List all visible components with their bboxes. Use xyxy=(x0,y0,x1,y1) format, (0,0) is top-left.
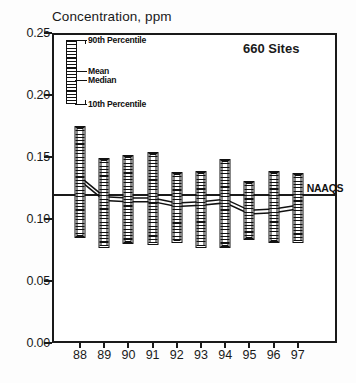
percentile-box xyxy=(123,155,134,244)
x-axis-tick-label: 92 xyxy=(170,348,184,362)
x-axis-tick-label: 93 xyxy=(194,348,208,362)
x-axis-tick-label: 88 xyxy=(73,348,87,362)
x-axis-tick-mark xyxy=(79,343,81,348)
x-axis-tick-mark xyxy=(152,343,154,348)
percentile-box-inner xyxy=(270,173,277,241)
concentration-boxplot-chart: Concentration, ppm 0.000.050.100.150.200… xyxy=(0,0,356,383)
percentile-box-inner xyxy=(198,173,205,246)
x-axis-tick-mark xyxy=(273,343,275,348)
legend-leader-line xyxy=(75,71,87,72)
percentile-box xyxy=(292,173,303,242)
naaqs-label: NAAQS xyxy=(307,182,343,194)
y-axis-tick-mark xyxy=(44,218,52,220)
y-axis: 0.000.050.100.150.200.25 xyxy=(0,0,50,383)
x-axis-tick-mark xyxy=(200,343,202,348)
x-axis-tick-mark xyxy=(176,343,178,348)
x-axis-tick-mark xyxy=(103,343,105,348)
x-axis-tick-label: 90 xyxy=(121,348,135,362)
x-axis-tick-label: 95 xyxy=(242,348,256,362)
y-axis-tick-mark xyxy=(44,156,52,158)
percentile-box xyxy=(220,159,231,247)
x-axis-tick-label: 89 xyxy=(97,348,111,362)
percentile-box xyxy=(75,126,86,238)
sites-count-note: 660 Sites xyxy=(243,41,299,56)
y-axis-tick-mark xyxy=(44,280,52,282)
percentile-box xyxy=(171,172,182,243)
x-axis-tick-mark xyxy=(248,343,250,348)
percentile-box xyxy=(196,171,207,248)
legend-leader-elbow xyxy=(85,40,86,44)
percentile-box-inner xyxy=(246,183,253,239)
percentile-box-inner xyxy=(77,128,84,236)
percentile-box-inner xyxy=(173,174,180,241)
percentile-box xyxy=(244,181,255,241)
x-axis-tick-label: 96 xyxy=(267,348,281,362)
legend-label: Median xyxy=(88,75,116,85)
x-axis-tick-mark xyxy=(224,343,226,348)
legend-label: 90th Percentile xyxy=(88,35,146,45)
y-axis-tick-mark xyxy=(44,342,52,344)
y-axis-tick-mark xyxy=(44,32,52,34)
x-axis-tick-label: 97 xyxy=(291,348,305,362)
percentile-box xyxy=(147,152,158,245)
x-axis-tick-mark xyxy=(297,343,299,348)
x-axis-tick-label: 94 xyxy=(218,348,232,362)
percentile-box-inner xyxy=(294,175,301,240)
y-axis-tick-mark xyxy=(44,94,52,96)
legend-leader-line xyxy=(75,80,87,81)
x-axis-tick-mark xyxy=(127,343,129,348)
chart-title: Concentration, ppm xyxy=(52,9,172,24)
x-axis-tick-label: 91 xyxy=(146,348,160,362)
percentile-box-inner xyxy=(101,160,108,245)
percentile-box-inner xyxy=(222,161,229,245)
percentile-box-inner xyxy=(125,157,132,242)
legend-label: 10th Percentile xyxy=(88,99,146,109)
percentile-box xyxy=(268,171,279,243)
percentile-box xyxy=(99,158,110,247)
legend-leader-elbow xyxy=(85,100,86,105)
percentile-box-inner xyxy=(149,154,156,243)
